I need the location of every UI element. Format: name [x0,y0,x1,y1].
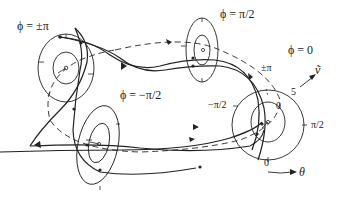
dashed-center-loop [48,42,280,152]
label-phi-minus-pi-half: ϕ = −π/2 [120,89,161,101]
tick-v-5: 5 [291,87,296,97]
label-phi-pm-pi: ϕ = ±π [17,20,49,32]
label-phi-zero: ϕ = 0 [288,44,313,56]
tick-theta-zero-bottom: 0 [264,158,269,168]
axis-label-v: ṽ [315,64,320,76]
tick-theta-pm-pi: ±π [261,63,272,73]
axis-label-theta: θ [299,166,305,178]
torus-diagram [0,0,343,202]
tick-theta-pi-half: π/2 [311,120,324,130]
theta-axis-arrowhead [290,169,297,175]
label-phi-pi-half: ϕ = π/2 [220,8,254,20]
tick-theta-minus-pi-half: −π/2 [208,100,226,110]
tick-theta-zero-inner: 0 [276,101,281,111]
section-phi-zero [232,89,307,162]
theta-axis-line [268,172,293,173]
section-phi-pi-half [181,18,218,82]
trajectory-markers [34,35,264,171]
